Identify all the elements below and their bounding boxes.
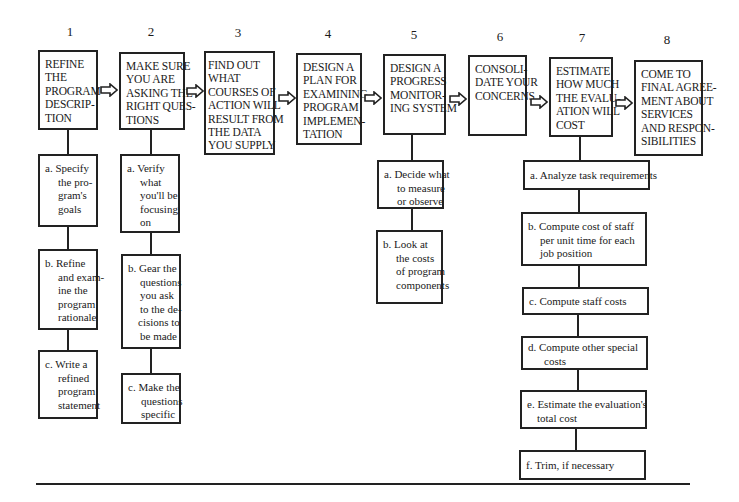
step-1-line: REFINE [45,58,92,71]
substep-5b: b. Look at the costs of program componen… [376,230,443,304]
substep-line: cisions to [128,316,175,330]
substep-line: and exam- [45,271,92,285]
substep-1c: c. Write a refined program statement [38,350,98,419]
step-box-4: DESIGN A PLAN FOR EXAMINING PROGRAM IMPL… [296,53,362,145]
substep-line: questions [128,276,175,290]
substep-first-line: b. Gear the [128,262,175,276]
connector-line [579,137,581,160]
connector-line [411,135,413,160]
step-8-line: COME TO [641,68,697,81]
step-3-line: ACTION WILL [208,99,269,112]
substep-line: be made [128,330,175,344]
substep-line: total cost [527,412,641,426]
substep-first-line: a. Analyze task requirements [530,169,644,183]
step-3-line: COURSES OF [208,86,269,99]
step-6-line: DATE YOUR [475,76,521,89]
substep-first-line: b. Compute cost of staff [528,220,641,234]
substep-line: the costs [383,252,437,266]
hollow-right-arrow-icon [364,91,382,105]
step-3-line: YOU SUPPLY [208,139,269,152]
connector-line [67,130,69,154]
step-3-line: THE DATA [208,126,269,139]
substep-line: program [45,385,92,399]
connector-line [67,227,69,249]
step-3-line: WHAT [208,72,269,85]
step-7-line: ATION WILL [556,105,607,118]
step-box-3: FIND OUT WHAT COURSES OF ACTION WILL RES… [204,51,275,155]
step-4-line: TATION [303,128,356,141]
substep-first-line: b. Refine [45,257,92,271]
connector-line [575,429,577,450]
hollow-right-arrow-icon [530,95,548,109]
connector-line [411,209,413,230]
step-7-line: ESTIMATE [556,65,607,78]
substep-line: or observe [384,195,438,209]
substep-line: refined [45,372,92,386]
step-number-3: 3 [228,25,248,41]
substep-line: to measure [384,182,438,196]
substep-first-line: a. Verify [127,162,174,176]
step-1-line: DESCRIP- [45,98,92,111]
hollow-right-arrow-icon [186,84,204,98]
step-4-line: IMPLEMEN- [303,115,356,128]
substep-7d: d. Compute other special costs [521,336,648,370]
step-number-5: 5 [404,27,424,43]
connector-line [150,233,152,254]
connector-line [67,330,69,350]
substep-first-line: c. Compute staff costs [529,295,643,309]
substep-5a: a. Decide what to measure or observe [377,160,444,209]
step-8-line: SIBILITIES [641,135,697,148]
substep-line: focusing [127,203,174,217]
step-5-line: ING SYSTEM [390,102,440,115]
substep-2a: a. Verify what you'll be focusing on [120,154,180,233]
substep-line: per unit time for each [528,234,641,248]
substep-line: what [127,176,174,190]
step-6-line: CONSOLI- [475,63,521,76]
substep-line: specific [128,408,175,422]
step-box-1: REFINE THE PROGRAM DESCRIP- TION [38,50,98,130]
step-1-line: PROGRAM [45,85,92,98]
substep-line: program [45,298,92,312]
step-number-1: 1 [60,24,80,40]
step-2-line: RIGHT QUES- [126,100,179,113]
substep-first-line: d. Compute other special [528,341,642,355]
substep-line: rationale [45,311,92,325]
substep-line: to the de- [128,303,175,317]
step-2-line: TIONS [126,114,179,127]
step-number-8: 8 [657,32,677,48]
substep-line: components [383,279,437,293]
step-box-5: DESIGN A PROGRESS MONITOR- ING SYSTEM [383,54,446,135]
hollow-right-arrow-icon [100,83,118,97]
step-number-6: 6 [490,29,510,45]
step-number-4: 4 [318,26,338,42]
substep-7b: b. Compute cost of staff per unit time f… [521,212,647,266]
hollow-right-arrow-icon [615,96,633,110]
substep-line: on [127,216,174,230]
substep-2c: c. Make the questions specific [121,373,181,424]
step-7-line: THE EVALU- [556,92,607,105]
substep-1b: b. Refine and exam- ine the program rati… [38,249,98,330]
step-8-line: MENT ABOUT [641,95,697,108]
substep-line: ine the [45,284,92,298]
substep-line: gram's [45,189,92,203]
step-box-2: MAKE SURE YOU ARE ASKING THE RIGHT QUES-… [119,52,185,130]
substep-first-line: b. Look at [383,238,437,252]
substep-first-line: c. Make the [128,381,175,395]
step-box-6: CONSOLI- DATE YOUR CONCERNS [468,55,527,136]
substep-line: statement [45,399,92,413]
bottom-rule-divider [36,483,690,485]
substep-first-line: a. Decide what [384,168,438,182]
substep-line: the pro- [45,176,92,190]
connector-line [577,370,579,390]
step-number-7: 7 [572,30,592,46]
step-3-line: RESULT FROM [208,113,269,126]
step-4-line: EXAMINING [303,88,356,101]
connector-line [578,190,580,212]
substep-first-line: a. Specify [45,162,92,176]
step-3-line: FIND OUT [208,59,269,72]
step-8-line: AND RESPON- [641,122,697,135]
step-2-line: MAKE SURE [126,60,179,73]
substep-1a: a. Specify the pro- gram's goals [38,154,98,227]
substep-first-line: e. Estimate the evaluation's [527,398,641,412]
connector-line [150,349,152,373]
